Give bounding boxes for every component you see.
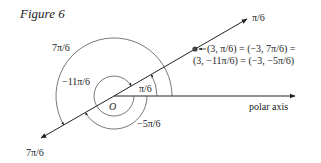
polar-axis-label: polar axis bbox=[249, 101, 288, 112]
point-label-line1: (3, π/6) = (−3, 7π/6) = bbox=[207, 43, 296, 55]
ray-opposite-label: 7π/6 bbox=[26, 147, 44, 158]
angle-label-7pi-over-6: 7π/6 bbox=[52, 42, 70, 53]
point-label-line2: (3, −11π/6) = (−3, −5π/6) bbox=[193, 55, 294, 67]
ray-end-label: π/6 bbox=[252, 12, 265, 23]
angle-label-pi-over-6: π/6 bbox=[139, 83, 152, 94]
angle-label-neg-11pi-over-6: −11π/6 bbox=[62, 76, 90, 87]
point-marker bbox=[192, 46, 197, 51]
arc-pi-over-6 bbox=[151, 75, 157, 97]
angle-label-neg-5pi-over-6: −5π/6 bbox=[137, 118, 160, 129]
origin-label: O bbox=[109, 101, 116, 112]
ray-7pi-over-6 bbox=[41, 96, 114, 138]
polar-diagram: O π/6 7π/6 polar axis π/6 7π/6 −11π/6 −5… bbox=[0, 0, 321, 163]
